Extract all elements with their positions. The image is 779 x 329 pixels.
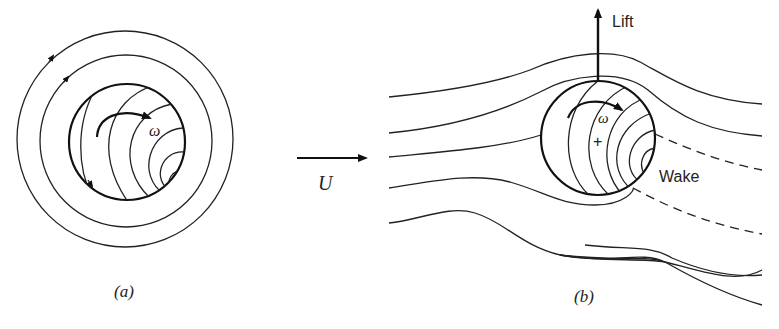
omega-label-b: ω [598,110,609,126]
wake-label: Wake [659,168,699,185]
panel-b-label: (b) [574,287,594,306]
rotation-arrow-icon [97,113,150,137]
outer-streamline [17,31,233,247]
panel-a: ω (a) [17,31,233,301]
panel-a-label: (a) [114,282,134,301]
wake-boundary [655,134,762,170]
streamline-direction-arrow-icon [64,77,68,82]
streamline [389,135,541,157]
velocity-label: U [318,172,334,194]
wake-boundary [633,188,762,234]
sphere-a: ω [69,84,185,202]
omega-label-a: ω [149,122,160,139]
sphere-b: ω + [541,81,655,196]
lift-label: Lift [612,13,634,30]
streamline [585,245,762,276]
free-stream-velocity: U [297,158,366,194]
panel-b: ω + Lift Wake (b) [389,10,762,306]
middle-streamline [40,55,212,227]
magnus-effect-diagram: ω (a) U [0,0,779,329]
center-mark: + [593,133,602,150]
